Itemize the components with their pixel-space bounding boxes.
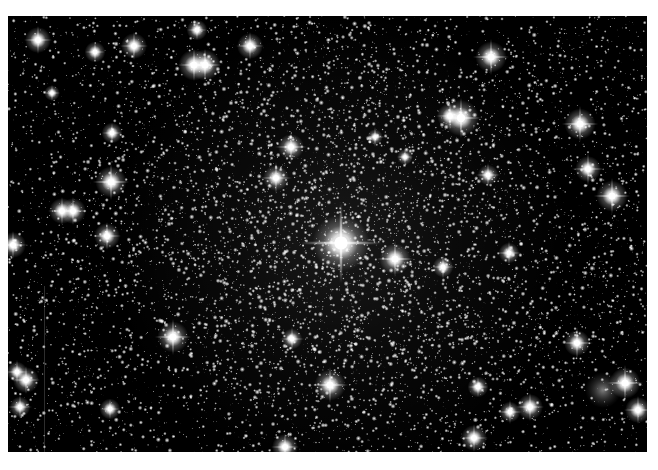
starfield-canvas bbox=[8, 16, 647, 452]
star-cluster-photo: Dense star cluster field (globular clust… bbox=[8, 16, 647, 452]
page: Dense star cluster field (globular clust… bbox=[0, 0, 658, 470]
